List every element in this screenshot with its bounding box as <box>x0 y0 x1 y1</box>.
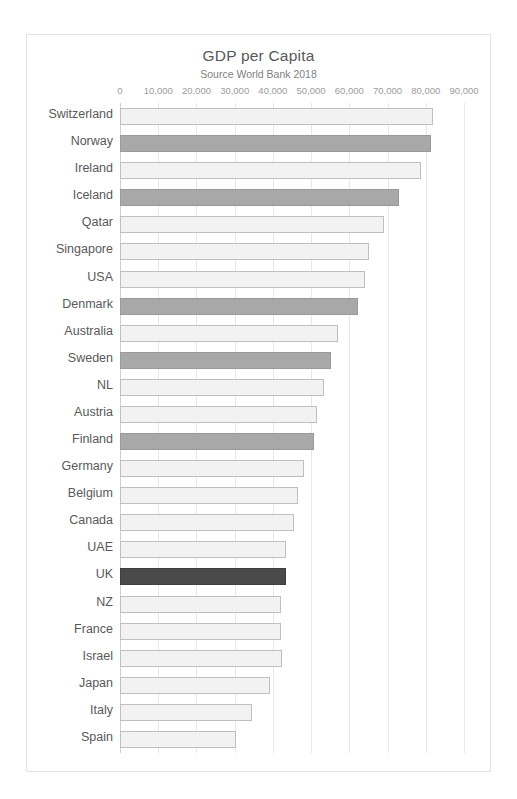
bar <box>120 189 399 206</box>
category-label: Sweden <box>68 351 113 365</box>
bar-row: Canada <box>120 509 464 536</box>
chart-subtitle: Source World Bank 2018 <box>27 68 490 80</box>
category-label: USA <box>87 270 113 284</box>
chart-title: GDP per Capita <box>27 47 490 65</box>
bar <box>120 731 236 748</box>
category-label: Germany <box>62 459 113 473</box>
chart-container: GDP per Capita Source World Bank 2018 01… <box>26 34 491 772</box>
bar <box>120 162 421 179</box>
bar-row: Sweden <box>120 347 464 374</box>
x-axis-tick-label: 70,000 <box>373 85 402 96</box>
category-label: NZ <box>96 595 113 609</box>
bar-row: Italy <box>120 699 464 726</box>
category-label: Canada <box>69 513 113 527</box>
bar <box>120 406 317 423</box>
bar <box>120 677 270 694</box>
bar-row: France <box>120 618 464 645</box>
category-label: Norway <box>71 134 113 148</box>
bar-row: USA <box>120 266 464 293</box>
bar-row: Spain <box>120 726 464 753</box>
bar-row: Austria <box>120 401 464 428</box>
bar-row: Denmark <box>120 293 464 320</box>
plot-area: SwitzerlandNorwayIrelandIcelandQatarSing… <box>120 103 464 753</box>
bar <box>120 514 294 531</box>
category-label: UAE <box>87 540 113 554</box>
x-axis-tick-label: 80,000 <box>411 85 440 96</box>
bar-row: Japan <box>120 672 464 699</box>
category-label: Switzerland <box>48 107 113 121</box>
category-label: Italy <box>90 703 113 717</box>
bar <box>120 379 324 396</box>
bar-row: NZ <box>120 591 464 618</box>
bar-row: UAE <box>120 536 464 563</box>
bar-row: Iceland <box>120 184 464 211</box>
bar <box>120 243 369 260</box>
category-label: Qatar <box>82 215 113 229</box>
x-axis-tick-label: 10,000 <box>144 85 173 96</box>
bar <box>120 135 431 152</box>
bar <box>120 325 338 342</box>
category-label: Finland <box>72 432 113 446</box>
bar <box>120 596 281 613</box>
x-axis-tick-label: 90,000 <box>449 85 478 96</box>
x-axis-tick-label: 30,000 <box>220 85 249 96</box>
bar <box>120 108 433 125</box>
category-label: UK <box>96 567 113 581</box>
gridline <box>464 103 465 753</box>
bar-row: UK <box>120 563 464 590</box>
bar <box>120 271 365 288</box>
bar-row: Belgium <box>120 482 464 509</box>
x-axis-tick-labels: 010,00020,00030,00040,00050,00060,00070,… <box>27 85 490 99</box>
bar <box>120 623 281 640</box>
bar <box>120 487 298 504</box>
category-label: Denmark <box>62 297 113 311</box>
bar <box>120 568 286 585</box>
category-label: Singapore <box>56 242 113 256</box>
category-label: NL <box>97 378 113 392</box>
bar-row: Switzerland <box>120 103 464 130</box>
x-axis-tick-label: 60,000 <box>335 85 364 96</box>
bar-row: Australia <box>120 320 464 347</box>
category-label: Australia <box>64 324 113 338</box>
category-label: Iceland <box>73 188 113 202</box>
category-label: Austria <box>74 405 113 419</box>
bar-row: Singapore <box>120 238 464 265</box>
bar-row: Norway <box>120 130 464 157</box>
category-label: Japan <box>79 676 113 690</box>
bar <box>120 433 314 450</box>
bar <box>120 704 252 721</box>
bar <box>120 460 304 477</box>
category-label: Israel <box>82 649 113 663</box>
x-axis-tick-label: 50,000 <box>297 85 326 96</box>
x-axis-tick-label: 20,000 <box>182 85 211 96</box>
bar-row: Ireland <box>120 157 464 184</box>
bar-row: Finland <box>120 428 464 455</box>
bar <box>120 352 331 369</box>
category-label: France <box>74 622 113 636</box>
x-axis-tick-label: 0 <box>117 85 122 96</box>
bar <box>120 216 384 233</box>
bar-row: Israel <box>120 645 464 672</box>
bar-row: NL <box>120 374 464 401</box>
bar-row: Germany <box>120 455 464 482</box>
category-label: Ireland <box>75 161 113 175</box>
bar <box>120 298 358 315</box>
bar-row: Qatar <box>120 211 464 238</box>
x-axis-tick-label: 40,000 <box>258 85 287 96</box>
category-label: Belgium <box>68 486 113 500</box>
category-label: Spain <box>81 730 113 744</box>
bar <box>120 650 282 667</box>
bar <box>120 541 286 558</box>
